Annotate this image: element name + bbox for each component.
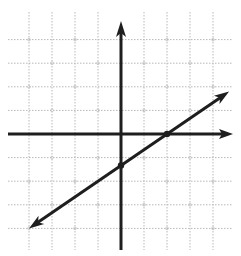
- plotted-line: [29, 92, 229, 229]
- axes: [8, 21, 233, 250]
- intercept-point: [118, 162, 124, 168]
- line-arrow-lower-left-icon: [29, 216, 44, 229]
- coordinate-graph: [0, 0, 241, 256]
- graph-line: [37, 97, 221, 223]
- intercept-point: [164, 131, 170, 137]
- line-arrow-upper-right-icon: [214, 92, 229, 105]
